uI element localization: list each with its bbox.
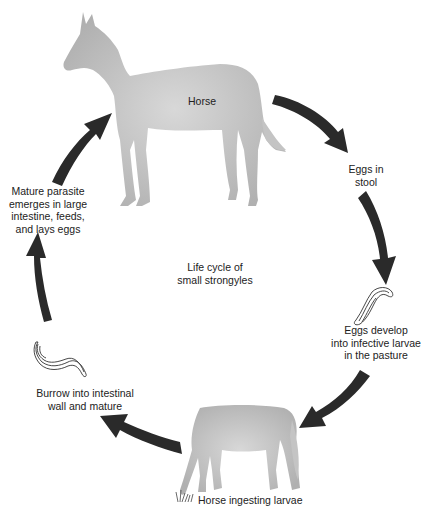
node-label-eggs-in-stool: Eggs in stool	[336, 163, 396, 188]
arrow-develop-to-horse	[299, 370, 370, 428]
label-line: intestine, feeds,	[5, 210, 91, 223]
label-line: into infective larvae	[324, 337, 427, 350]
arrow-horse-to-eggs	[272, 95, 348, 153]
label-line: Eggs in	[336, 163, 396, 176]
arrow-eggs-to-develop	[358, 191, 396, 285]
title-line: Life cycle of	[170, 261, 260, 274]
node-label-mature-parasite: Mature parasite emerges in large intesti…	[5, 185, 91, 235]
diagram-graphics	[0, 0, 427, 512]
label-line: wall and mature	[30, 400, 140, 413]
label-line: Burrow into intestinal	[30, 387, 140, 400]
grazing-horse-icon	[180, 405, 300, 495]
standing-horse-icon	[63, 12, 286, 206]
larva-icon	[354, 288, 392, 325]
larva-icon	[34, 342, 86, 377]
label-line: and lays eggs	[5, 223, 91, 236]
arrow-burrow-to-mature	[26, 232, 52, 322]
life-cycle-diagram: Horse Eggs in stool Eggs develop into in…	[0, 0, 427, 512]
arrow-horse-to-burrow	[100, 414, 182, 454]
label-line: in the pasture	[324, 349, 427, 362]
label-line: stool	[336, 176, 396, 189]
node-label-horse-ingesting: Horse ingesting larvae	[198, 494, 318, 507]
node-label-horse: Horse	[172, 95, 232, 108]
arrow-mature-to-horse	[52, 113, 112, 186]
label-line: Eggs develop	[324, 324, 427, 337]
title-line: small strongyles	[170, 274, 260, 287]
node-label-eggs-develop: Eggs develop into infective larvae in th…	[324, 324, 427, 362]
label-line: emerges in large	[5, 198, 91, 211]
node-label-burrow: Burrow into intestinal wall and mature	[30, 387, 140, 412]
label-line: Mature parasite	[5, 185, 91, 198]
diagram-title: Life cycle of small strongyles	[170, 261, 260, 286]
